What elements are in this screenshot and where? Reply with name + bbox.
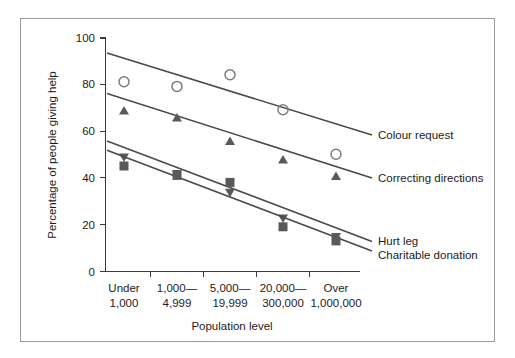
y-axis-tick-labels: 0 20 40 60 80 100: [76, 32, 95, 278]
y-tick-label-100: 100: [76, 32, 95, 44]
chart-screenshot: 0 20 40 60 80 100 Percentage of people g…: [0, 0, 515, 358]
data-point-colour-request-4: [278, 105, 288, 115]
x-category-label-2-line1: 1,000—: [157, 282, 198, 294]
x-axis-title: Population level: [191, 320, 272, 332]
x-category-label-3-line1: 5,000—: [210, 282, 251, 294]
y-tick-label-40: 40: [82, 172, 95, 184]
data-point-correcting-directions-4: [278, 155, 288, 164]
trend-line-colour-request: [107, 53, 372, 135]
data-point-colour-request-5: [331, 149, 341, 159]
series-correcting-directions: [107, 93, 372, 179]
scatter-chart: 0 20 40 60 80 100 Percentage of people g…: [0, 0, 515, 358]
series-hurt-leg: [107, 141, 372, 242]
data-point-charitable-donation-1: [120, 162, 129, 171]
data-point-charitable-donation-3: [226, 178, 235, 187]
y-tick-label-60: 60: [82, 125, 95, 137]
data-point-correcting-directions-5: [331, 171, 341, 180]
x-category-label-3-line2: 19,999: [212, 297, 247, 309]
x-category-label-5-line2: 1,000,000: [310, 297, 361, 309]
x-category-label-2-line2: 4,999: [163, 297, 192, 309]
x-category-label-5-line1: Over: [324, 282, 349, 294]
data-point-charitable-donation-5: [332, 236, 341, 245]
data-point-charitable-donation-4: [279, 222, 288, 231]
x-axis-category-labels: Under 1,000 1,000— 4,999 5,000— 19,999 2…: [108, 282, 361, 309]
data-point-correcting-directions-3: [225, 136, 235, 145]
series-label-charitable-donation: Charitable donation: [378, 249, 478, 261]
x-category-label-1-line2: 1,000: [110, 297, 139, 309]
data-point-colour-request-2: [172, 81, 182, 91]
y-axis-title: Percentage of people giving help: [46, 71, 58, 239]
y-tick-label-80: 80: [82, 78, 95, 90]
y-tick-label-20: 20: [82, 219, 95, 231]
x-category-label-4-line1: 20,000—: [260, 282, 307, 294]
x-category-label-1-line1: Under: [108, 282, 139, 294]
series-label-group: Colour request Correcting directions Hur…: [378, 129, 484, 261]
series-label-colour-request: Colour request: [378, 129, 454, 141]
data-point-colour-request-3: [225, 70, 235, 80]
trend-line-hurt-leg: [107, 141, 372, 242]
x-axis-ticks: [151, 272, 310, 278]
series-label-hurt-leg: Hurt leg: [378, 235, 418, 247]
data-point-charitable-donation-2: [173, 171, 182, 180]
data-point-colour-request-1: [119, 77, 129, 87]
series-label-correcting-directions: Correcting directions: [378, 172, 484, 184]
data-point-correcting-directions-1: [119, 106, 129, 115]
x-category-label-4-line2: 300,000: [262, 297, 304, 309]
y-axis-ticks: [100, 38, 106, 272]
y-tick-label-0: 0: [89, 266, 95, 278]
